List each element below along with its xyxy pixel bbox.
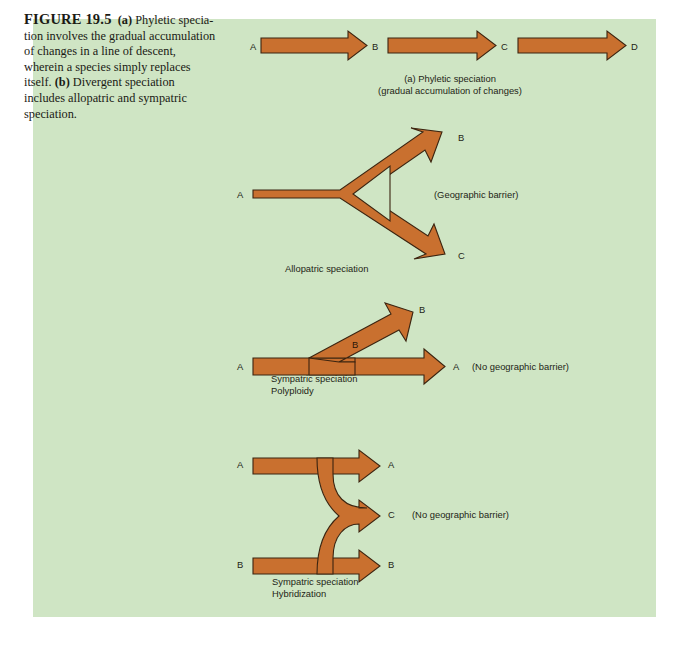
polyploidy-title-line1: Sympatric speciation <box>271 373 358 385</box>
caption-marker-b: (b) <box>55 75 70 89</box>
allopatric-label-c: C <box>458 250 465 262</box>
phyletic-label-a: A <box>250 41 256 53</box>
phyletic-arrow-3 <box>518 31 626 60</box>
polyploidy-label-b-end: B <box>419 304 425 316</box>
phyletic-caption-rest: Phyletic speciation <box>416 73 496 84</box>
hybridization-title-line2: Hybridization <box>272 588 326 600</box>
polyploidy-branch-arrow <box>309 303 413 362</box>
polyploidy-barrier-note: (No geographic barrier) <box>472 361 569 373</box>
figure-caption: FIGURE 19.5 (a) Phyletic specia­tion inv… <box>24 12 216 122</box>
hybridization-label-b-start: B <box>237 559 243 571</box>
allopatric-barrier-note: (Geographic barrier) <box>434 189 518 201</box>
allopatric-title: Allopatric speciation <box>285 263 368 275</box>
polyploidy-label-a-end: A <box>453 361 459 373</box>
hybridization-barrier-note: (No geographic barrier) <box>412 509 509 521</box>
polyploidy-label-a-start: A <box>237 361 243 373</box>
hybridization-top-arrow <box>253 450 380 482</box>
phyletic-caption-line1: (a) Phyletic speciation <box>380 73 520 85</box>
hybridization-label-a-end: A <box>388 459 394 471</box>
polyploidy-branch-inner-label: B <box>352 339 358 351</box>
hybridization-speciation-diagram <box>245 452 475 592</box>
allopatric-arrow-body <box>253 128 445 259</box>
phyletic-speciation-diagram <box>255 30 635 75</box>
phyletic-caption-marker: (a) <box>404 73 415 84</box>
phyletic-caption-line2: (gradual accumulation of changes) <box>370 85 530 97</box>
figure-number: FIGURE 19.5 <box>24 11 112 27</box>
allopatric-label-b: B <box>458 132 464 144</box>
hybridization-label-c-end: C <box>388 509 395 521</box>
hybridization-label-a-start: A <box>237 459 243 471</box>
polyploidy-title-line2: Polyploidy <box>271 385 314 397</box>
phyletic-arrow-1 <box>261 31 367 60</box>
hybridization-label-b-end: B <box>388 559 394 571</box>
allopatric-label-a: A <box>237 189 243 201</box>
phyletic-label-b: B <box>372 41 378 53</box>
phyletic-arrow-2 <box>388 31 496 60</box>
hybridization-title-line1: Sympatric speciation <box>272 576 359 588</box>
phyletic-label-d: D <box>631 41 638 53</box>
page-root: FIGURE 19.5 (a) Phyletic specia­tion inv… <box>0 0 684 651</box>
phyletic-label-c: C <box>501 41 508 53</box>
caption-marker-a: (a) <box>118 13 132 27</box>
hybridization-middle-arrow <box>317 458 380 574</box>
